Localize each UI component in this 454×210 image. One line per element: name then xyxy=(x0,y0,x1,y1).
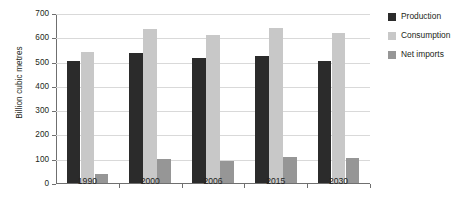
bar-consumption-2000 xyxy=(143,29,157,183)
y-tick-mark xyxy=(52,87,56,88)
y-tick-mark xyxy=(52,63,56,64)
legend-item-production[interactable]: Production xyxy=(388,12,450,21)
bar-production-1990 xyxy=(67,61,81,183)
y-tick-label: 0 xyxy=(44,180,49,188)
legend-item-net-imports[interactable]: Net imports xyxy=(388,50,450,59)
y-tick-label: 600 xyxy=(35,34,49,42)
y-tick-mark xyxy=(52,160,56,161)
x-tick-separator xyxy=(370,184,371,188)
legend-label: Consumption xyxy=(401,31,450,40)
plot-area: 0100200300400500600700 xyxy=(56,14,370,184)
chart-legend: Production Consumption Net imports xyxy=(388,12,450,69)
y-tick-label: 500 xyxy=(35,58,49,66)
y-tick-label: 300 xyxy=(35,107,49,115)
bar-consumption-2030 xyxy=(332,33,346,183)
y-tick-label: 400 xyxy=(35,83,49,91)
bar-production-2006 xyxy=(192,58,206,183)
bar-production-2000 xyxy=(129,53,143,183)
bar-consumption-2015 xyxy=(269,28,283,183)
y-axis-title: Billion cubic metres xyxy=(15,18,24,148)
x-axis-label-1990: 1990 xyxy=(56,176,119,186)
legend-item-consumption[interactable]: Consumption xyxy=(388,31,450,40)
bar-production-2015 xyxy=(255,56,269,183)
bar-production-2030 xyxy=(318,61,332,183)
x-axis-label-2006: 2006 xyxy=(182,176,245,186)
y-tick-mark xyxy=(52,111,56,112)
y-tick-mark xyxy=(52,14,56,15)
gridline xyxy=(56,14,370,15)
bar-chart: Billion cubic metres 0100200300400500600… xyxy=(0,0,454,210)
bar-consumption-2006 xyxy=(206,35,220,183)
y-tick-mark xyxy=(52,38,56,39)
legend-swatch-icon xyxy=(388,32,396,40)
y-tick-label: 700 xyxy=(35,10,49,18)
y-axis-line xyxy=(56,14,57,184)
bar-consumption-1990 xyxy=(81,52,95,183)
x-axis-label-2015: 2015 xyxy=(244,176,307,186)
legend-label: Net imports xyxy=(401,50,444,59)
legend-swatch-icon xyxy=(388,13,396,21)
x-axis-label-2000: 2000 xyxy=(119,176,182,186)
y-tick-label: 100 xyxy=(35,156,49,164)
legend-label: Production xyxy=(401,12,441,21)
x-axis-label-2030: 2030 xyxy=(307,176,370,186)
y-tick-mark xyxy=(52,135,56,136)
y-tick-label: 200 xyxy=(35,131,49,139)
legend-swatch-icon xyxy=(388,51,396,59)
